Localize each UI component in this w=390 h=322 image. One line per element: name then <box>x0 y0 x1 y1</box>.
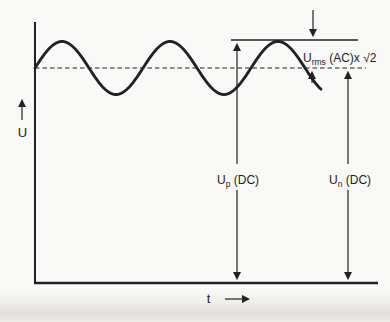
un-dc-label: Un (DC) <box>329 173 371 189</box>
ripple-amplitude-label: Urms (AC)x √2 <box>303 51 377 67</box>
un-dc-label-rest: (DC) <box>342 173 371 187</box>
ripple-amplitude-label-sub: rms <box>312 57 326 67</box>
x-axis-label: t <box>207 291 211 306</box>
figure-canvas: U t Urms (AC)x √2 Up (DC) Un (DC) <box>0 0 390 322</box>
un-dc-label-base: U <box>329 173 338 187</box>
ripple-amplitude-label-rest: (AC)x √2 <box>326 51 377 65</box>
scanned-figure-page: U t Urms (AC)x √2 Up (DC) Un (DC) <box>0 0 390 322</box>
up-dc-label: Up (DC) <box>217 173 259 189</box>
up-dc-label-rest: (DC) <box>230 173 259 187</box>
ripple-amplitude-label-base: U <box>303 51 312 65</box>
y-axis-label: U <box>18 125 27 140</box>
up-dc-label-base: U <box>217 173 226 187</box>
